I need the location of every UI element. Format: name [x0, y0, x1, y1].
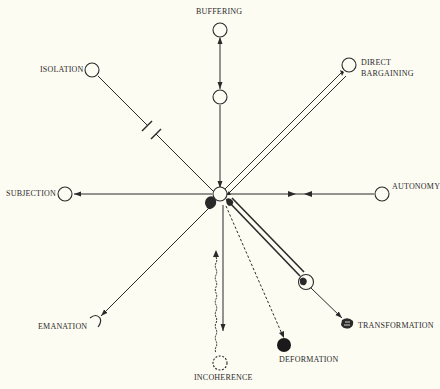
- edge-incoherence: [213, 205, 223, 353]
- label-deformation: DEFORMATION: [279, 355, 339, 365]
- edge-emanation: [101, 203, 214, 316]
- node-transformation: [341, 318, 353, 328]
- label-buffering: BUFFERING: [196, 7, 242, 17]
- edge-direct-bargaining: [224, 70, 346, 195]
- node-buffering-mid: [213, 90, 227, 104]
- label-autonomy: AUTONOMY: [392, 182, 440, 192]
- node-isolation: [85, 63, 99, 77]
- label-transformation: TRANSFORMATION: [358, 321, 434, 331]
- node-autonomy: [375, 187, 389, 201]
- node-emanation: [90, 316, 101, 328]
- label-direct: DIRECT: [361, 58, 391, 68]
- node-deformation: [277, 338, 291, 352]
- edge-autonomy: [228, 191, 374, 197]
- edge-deformation: [226, 206, 284, 338]
- node-transformation-mid: [299, 275, 314, 290]
- node-incoherence: [213, 356, 227, 370]
- edge-isolation: [98, 76, 214, 192]
- node-buffering: [213, 23, 227, 37]
- label-isolation: ISOLATION: [40, 65, 84, 75]
- label-subjection: SUBJECTION: [6, 189, 56, 199]
- edge-transformation: [228, 198, 342, 318]
- label-incoherence: INCOHERENCE: [194, 373, 253, 383]
- node-direct-bargaining: [342, 58, 356, 72]
- node-subjection: [58, 187, 72, 201]
- center-node: [205, 187, 233, 209]
- label-bargaining: BARGAINING: [361, 69, 414, 79]
- label-emanation: EMANATION: [38, 322, 87, 332]
